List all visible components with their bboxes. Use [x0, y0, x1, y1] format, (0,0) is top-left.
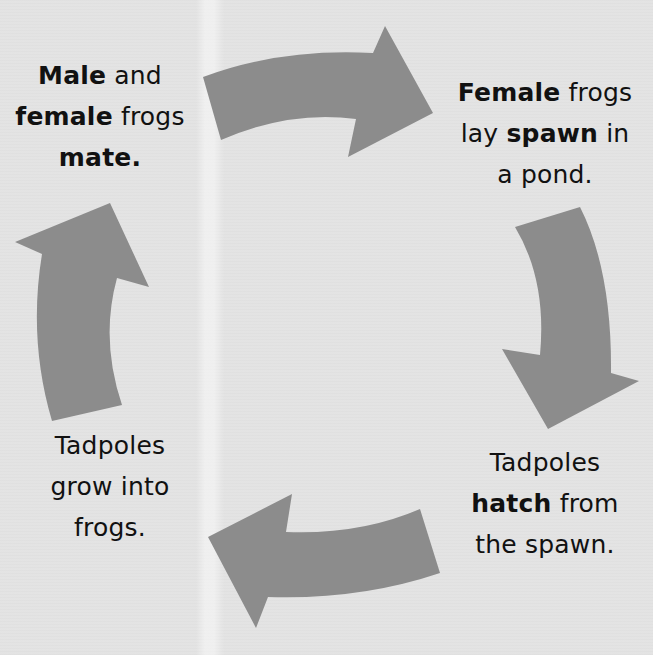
label-text: a pond. [497, 160, 593, 189]
label-line: frogs. [20, 507, 200, 548]
label-line: a pond. [437, 154, 653, 195]
label-line: the spawn. [437, 524, 653, 565]
label-text: in [598, 119, 629, 148]
step-spawn-label: Female frogslay spawn ina pond. [437, 72, 653, 195]
key-term: female [15, 102, 112, 131]
arrow-right-icon [203, 26, 433, 157]
key-term: Female [458, 78, 561, 107]
key-term: Male [38, 61, 106, 90]
label-text: frogs [560, 78, 632, 107]
label-line: lay spawn in [437, 113, 653, 154]
label-line: mate. [0, 137, 200, 178]
label-line: female frogs [0, 96, 200, 137]
label-line: Male and [0, 55, 200, 96]
key-term: hatch [471, 489, 551, 518]
step-mate-label: Male andfemale frogsmate. [0, 55, 200, 178]
label-text: frogs [113, 102, 185, 131]
label-text: grow into [51, 472, 170, 501]
label-line: Tadpoles [437, 442, 653, 483]
label-text: and [106, 61, 162, 90]
label-text: Tadpoles [490, 448, 600, 477]
step-grow-label: Tadpolesgrow intofrogs. [20, 425, 200, 548]
label-line: hatch from [437, 483, 653, 524]
label-text: the spawn. [475, 530, 614, 559]
arrow-left-icon [208, 494, 440, 628]
label-line: Female frogs [437, 72, 653, 113]
arrow-up-icon [15, 203, 149, 421]
label-text: from [552, 489, 619, 518]
arrow-down-icon [502, 207, 639, 429]
label-text: lay [461, 119, 507, 148]
key-term: spawn [506, 119, 598, 148]
step-hatch-label: Tadpoleshatch fromthe spawn. [437, 442, 653, 565]
key-term: mate. [59, 143, 141, 172]
label-text: frogs. [74, 513, 146, 542]
label-text: Tadpoles [55, 431, 165, 460]
label-line: grow into [20, 466, 200, 507]
label-line: Tadpoles [20, 425, 200, 466]
